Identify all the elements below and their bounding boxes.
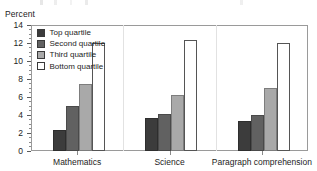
y-axis-title: Percent xyxy=(5,9,35,19)
y-tick-label: 12 xyxy=(7,38,23,48)
legend-item: Third quartile xyxy=(37,50,105,59)
x-category-label: Science xyxy=(154,157,184,167)
bar xyxy=(158,114,171,151)
bar xyxy=(171,95,184,151)
y-tick-label: 14 xyxy=(7,20,23,30)
bar xyxy=(277,43,290,151)
bar xyxy=(251,115,264,151)
cut-off-title-strip xyxy=(40,0,290,5)
legend-item-label: Bottom quartile xyxy=(50,62,104,71)
bar xyxy=(238,121,251,151)
x-tick-mark xyxy=(77,151,78,155)
x-tick-mark xyxy=(262,151,263,155)
bar-group xyxy=(216,25,308,151)
legend-item: Second quartile xyxy=(37,39,105,48)
legend-item: Bottom quartile xyxy=(37,62,105,71)
legend-item-label: Second quartile xyxy=(50,39,106,48)
bar xyxy=(66,106,79,151)
legend-item-label: Third quartile xyxy=(50,50,97,59)
y-tick-label: 2 xyxy=(7,128,23,138)
y-tick-label: 10 xyxy=(7,56,23,66)
y-tick-label: 8 xyxy=(7,74,23,84)
chart-legend: Top quartileSecond quartileThird quartil… xyxy=(37,28,105,71)
y-tick-label: 4 xyxy=(7,110,23,120)
bar-group xyxy=(123,25,215,151)
legend-swatch-icon xyxy=(37,62,45,70)
y-tick-label: 0 xyxy=(7,146,23,156)
bar xyxy=(264,88,277,151)
x-category-label: Mathematics xyxy=(53,157,101,167)
y-tick-mark xyxy=(27,151,31,152)
legend-item: Top quartile xyxy=(37,28,105,37)
bar-chart: Percent 02468101214 Top quartileSecond q… xyxy=(0,0,317,171)
y-tick-label: 6 xyxy=(7,92,23,102)
x-category-label: Paragraph comprehension xyxy=(212,157,312,167)
legend-swatch-icon xyxy=(37,40,45,48)
legend-swatch-icon xyxy=(37,51,45,59)
legend-item-label: Top quartile xyxy=(50,28,91,37)
x-tick-mark xyxy=(170,151,171,155)
bar xyxy=(79,84,92,151)
bar xyxy=(53,130,66,151)
bar xyxy=(145,118,158,150)
legend-swatch-icon xyxy=(37,29,45,37)
bar xyxy=(184,40,197,151)
